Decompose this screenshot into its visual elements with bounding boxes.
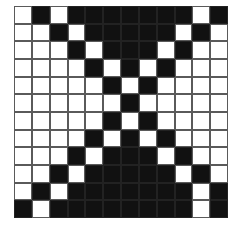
grid-cell (139, 59, 157, 77)
grid-row (14, 130, 228, 148)
grid-cell (32, 94, 50, 112)
grid-cell (210, 165, 228, 183)
grid-cell (50, 24, 68, 42)
grid-cell (192, 183, 210, 201)
grid-cell (192, 94, 210, 112)
grid-cell (210, 77, 228, 95)
grid-cell (32, 183, 50, 201)
grid-cell (14, 130, 32, 148)
grid-cell (50, 59, 68, 77)
grid-cell (139, 130, 157, 148)
grid-cell (157, 147, 175, 165)
grid-cell (103, 112, 121, 130)
grid-cell (192, 130, 210, 148)
grid-cell (68, 59, 86, 77)
grid-cell (85, 77, 103, 95)
grid-cell (32, 200, 50, 218)
grid-row (14, 59, 228, 77)
grid-cell (192, 165, 210, 183)
grid-cell (85, 59, 103, 77)
grid-cell (50, 130, 68, 148)
grid-cell (175, 165, 193, 183)
grid-cell (103, 59, 121, 77)
grid-cell (68, 112, 86, 130)
grid-cell (175, 6, 193, 24)
grid-cell (68, 130, 86, 148)
grid-cell (210, 183, 228, 201)
grid-cell (50, 6, 68, 24)
grid-cell (192, 147, 210, 165)
grid-cell (157, 6, 175, 24)
grid-cell (103, 183, 121, 201)
grid-cell (14, 59, 32, 77)
grid-cell (210, 6, 228, 24)
grid-cell (103, 147, 121, 165)
grid-cell (121, 112, 139, 130)
grid-cell (14, 200, 32, 218)
grid-cell (121, 183, 139, 201)
grid-cell (32, 41, 50, 59)
grid-cell (157, 183, 175, 201)
grid-cell (103, 94, 121, 112)
grid-cell (175, 94, 193, 112)
grid-cell (157, 200, 175, 218)
grid-cell (139, 77, 157, 95)
grid-cell (68, 165, 86, 183)
grid-cell (121, 24, 139, 42)
grid-cell (32, 165, 50, 183)
grid-cell (210, 41, 228, 59)
grid-cell (157, 41, 175, 59)
grid-cell (175, 24, 193, 42)
grid-cell (50, 165, 68, 183)
grid-cell (85, 41, 103, 59)
grid-cell (103, 77, 121, 95)
grid-cell (50, 94, 68, 112)
grid-cell (103, 165, 121, 183)
grid-cell (32, 77, 50, 95)
grid-cell (175, 200, 193, 218)
grid-row (14, 147, 228, 165)
grid-cell (85, 130, 103, 148)
grid-cell (121, 77, 139, 95)
grid-cell (103, 6, 121, 24)
grid-cell (210, 112, 228, 130)
grid-cell (85, 24, 103, 42)
grid-cell (139, 165, 157, 183)
grid-cell (175, 147, 193, 165)
grid-cell (192, 24, 210, 42)
grid-cell (85, 183, 103, 201)
grid-row (14, 183, 228, 201)
grid-cell (103, 200, 121, 218)
grid-cell (68, 77, 86, 95)
grid-cell (210, 200, 228, 218)
grid-cell (68, 147, 86, 165)
grid-cell (85, 6, 103, 24)
grid-cell (210, 94, 228, 112)
grid-cell (139, 147, 157, 165)
grid-cell (32, 147, 50, 165)
grid-cell (85, 94, 103, 112)
grid-cell (68, 41, 86, 59)
grid-cell (50, 41, 68, 59)
grid-cell (14, 41, 32, 59)
grid-cell (157, 165, 175, 183)
grid-cell (139, 24, 157, 42)
grid-row (14, 165, 228, 183)
grid-cell (175, 59, 193, 77)
grid-cell (139, 41, 157, 59)
grid-cell (157, 94, 175, 112)
grid-cell (157, 112, 175, 130)
grid-cell (32, 6, 50, 24)
grid-cell (121, 130, 139, 148)
grid-cell (14, 147, 32, 165)
grid-cell (139, 200, 157, 218)
grid-cell (192, 77, 210, 95)
grid-cell (210, 147, 228, 165)
grid-cell (85, 112, 103, 130)
grid-cell (175, 77, 193, 95)
grid-cell (157, 24, 175, 42)
grid-cell (103, 130, 121, 148)
grid-cell (68, 6, 86, 24)
grid-cell (175, 183, 193, 201)
grid-cell (85, 165, 103, 183)
